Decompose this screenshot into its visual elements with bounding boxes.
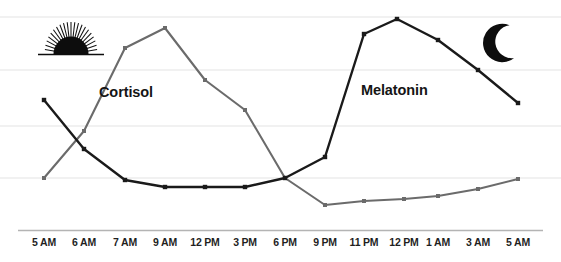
- melatonin-line-series: [44, 19, 518, 187]
- data-point-marker: [402, 197, 406, 201]
- x-tick-label: 9 AM: [153, 236, 177, 248]
- data-point-marker: [203, 185, 207, 189]
- data-point-marker: [243, 108, 247, 112]
- cortisol-series-label: Cortisol: [99, 84, 153, 100]
- x-tick-label: 1 AM: [426, 236, 450, 248]
- moon-crescent-shape: [483, 24, 514, 62]
- crescent-moon-glyph: [478, 22, 522, 66]
- x-tick-label: 12 PM: [190, 236, 219, 248]
- data-point-marker: [516, 177, 520, 181]
- data-point-marker: [516, 101, 520, 105]
- data-point-marker: [123, 178, 127, 182]
- x-tick-label: 6 AM: [72, 236, 96, 248]
- sunrise-icon-glyph: [36, 20, 106, 62]
- data-point-marker: [436, 194, 440, 198]
- data-point-marker: [323, 155, 327, 159]
- data-point-marker: [123, 46, 127, 50]
- data-point-marker: [476, 187, 480, 191]
- melatonin-data-markers: [42, 17, 520, 189]
- data-point-marker: [42, 98, 46, 102]
- sun-disc: [54, 37, 89, 55]
- x-tick-label: 7 AM: [113, 236, 137, 248]
- x-tick-label: 12 PM: [389, 236, 418, 248]
- x-tick-label: 3 PM: [233, 236, 257, 248]
- data-point-marker: [243, 185, 247, 189]
- data-point-marker: [82, 129, 86, 133]
- data-point-marker: [203, 78, 207, 82]
- x-tick-label: 6 PM: [273, 236, 297, 248]
- sunrise-icon: [36, 20, 106, 62]
- data-point-marker: [163, 26, 167, 30]
- data-point-marker: [163, 185, 167, 189]
- data-point-marker: [323, 203, 327, 207]
- data-point-marker: [283, 176, 287, 180]
- x-tick-label: 11 PM: [350, 236, 379, 248]
- data-point-marker: [42, 176, 46, 180]
- data-point-marker: [476, 68, 480, 72]
- data-point-marker: [362, 199, 366, 203]
- circadian-rhythm-chart: Cortisol Melatonin 5 AM6 AM7 AM9 AM12 PM…: [0, 0, 561, 262]
- data-point-marker: [82, 147, 86, 151]
- data-point-marker: [436, 38, 440, 42]
- x-axis-tick-labels: 5 AM6 AM7 AM9 AM12 PM3 PM6 PM9 PM11 PM12…: [0, 236, 561, 258]
- x-tick-label: 3 AM: [466, 236, 490, 248]
- data-point-marker: [395, 17, 399, 21]
- x-tick-label: 5 AM: [32, 236, 56, 248]
- crescent-moon-icon: [478, 22, 522, 66]
- melatonin-series-label: Melatonin: [361, 82, 428, 98]
- x-tick-label: 5 AM: [506, 236, 530, 248]
- data-point-marker: [362, 32, 366, 36]
- x-tick-label: 9 PM: [313, 236, 337, 248]
